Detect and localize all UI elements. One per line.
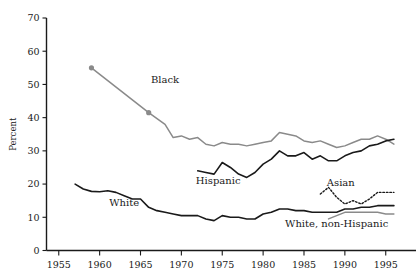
- y-axis-title: Percent: [8, 117, 18, 151]
- series-line-hispanic: [198, 139, 394, 177]
- series-line-black: [91, 68, 393, 148]
- x-tick-labels: 195519601965197019751980198519901995: [47, 259, 398, 270]
- x-tick-label: 1970: [169, 259, 193, 270]
- series-label-black: Black: [151, 74, 180, 85]
- series-label-white-non-hispanic: White, non-Hispanic: [285, 218, 389, 229]
- series-label-asian: Asian: [326, 177, 356, 188]
- series-line-asian: [320, 187, 394, 204]
- series-label-hispanic: Hispanic: [196, 175, 241, 186]
- y-tick-label: 70: [27, 12, 39, 23]
- series-label-white: White: [109, 197, 139, 208]
- x-tick-label: 1955: [47, 259, 71, 270]
- y-tick-label: 50: [27, 79, 39, 90]
- x-tick-label: 1980: [251, 259, 275, 270]
- line-chart-svg: 010203040506070 195519601965197019751980…: [0, 0, 418, 277]
- y-tick-label: 40: [27, 112, 39, 123]
- x-tick-label: 1965: [128, 259, 152, 270]
- y-tick-label: 60: [27, 46, 39, 57]
- y-tick-label: 30: [27, 145, 39, 156]
- x-tick-label: 1985: [292, 259, 316, 270]
- y-tick-labels: 010203040506070: [27, 12, 39, 256]
- x-tick-label: 1995: [374, 259, 398, 270]
- x-tick-label: 1990: [333, 259, 357, 270]
- data-point-marker: [89, 65, 94, 70]
- y-tick-label: 0: [33, 245, 39, 256]
- x-tick-label: 1960: [88, 259, 112, 270]
- series-labels: BlackHispanicWhiteAsianWhite, non-Hispan…: [109, 74, 388, 229]
- y-tick-label: 10: [27, 212, 39, 223]
- data-point-marker: [146, 110, 151, 115]
- y-tick-label: 20: [27, 178, 39, 189]
- y-axis-title-text: Percent: [8, 117, 18, 151]
- x-tick-label: 1975: [210, 259, 234, 270]
- chart-container: 010203040506070 195519601965197019751980…: [0, 0, 418, 277]
